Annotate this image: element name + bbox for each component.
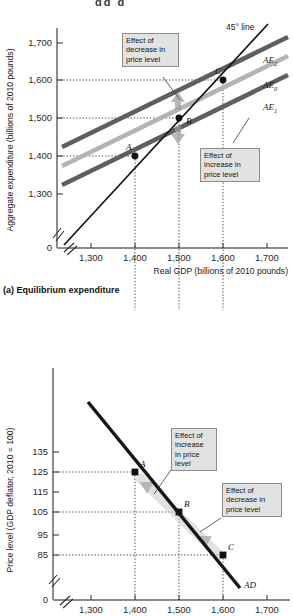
y-tick-label-1400: 1,400: [28, 150, 52, 161]
point-c: [220, 77, 227, 84]
point-label-a: A: [139, 459, 146, 469]
panel-b-svg: A B C AD 85 95 105 115 125 135 0 1,300 1…: [0, 300, 293, 616]
equilibrium-expenditure-chart: A B C 45° line AE2 AE0 AE1 1,300 1,400 1…: [0, 0, 293, 300]
y-tick-label-1300: 1,300: [28, 188, 52, 199]
callout-line: in price: [175, 450, 213, 459]
callout-line: Effect of: [204, 151, 256, 160]
callout-line: increase in: [204, 160, 256, 169]
point-label-b: B: [184, 499, 190, 509]
callout-line: price level: [226, 505, 278, 514]
origin-label: 0: [43, 594, 48, 605]
callout-increase-price-level: Effect of increase in price level: [200, 148, 260, 182]
point-label-c: C: [228, 542, 235, 552]
curve-label-45-degree: 45° line: [226, 22, 255, 32]
y-tick-label-105: 105: [32, 506, 48, 517]
callout-decrease-price-level: Effect of decrease in price level: [122, 33, 179, 67]
point-b: [176, 115, 183, 122]
x-tick-label-1400: 1,400: [123, 604, 147, 615]
x-tick-label-1700: 1,700: [255, 604, 279, 615]
point-b: [176, 509, 183, 516]
callout-line: price level: [126, 55, 175, 64]
callout-line: increase: [175, 440, 213, 449]
callout-line: Effect of: [226, 486, 278, 495]
point-label-b: B: [186, 116, 192, 126]
panel-a-caption: (a) Equilibrium expenditure: [3, 285, 120, 295]
callout-line: decrease in: [126, 45, 175, 54]
callout-increase-price-level: Effect of increase in price level: [171, 428, 217, 471]
origin-label: 0: [47, 242, 52, 253]
callout-line: Effect of: [126, 36, 175, 45]
curve-ad: [88, 402, 240, 588]
callout-line: price level: [204, 170, 256, 179]
y-tick-label-135: 135: [32, 446, 48, 457]
x-tick-label-1300: 1,300: [79, 252, 103, 263]
point-label-a: A: [125, 142, 132, 152]
point-a: [132, 469, 139, 476]
point-a: [132, 153, 139, 160]
y-tick-label-95: 95: [37, 529, 48, 540]
x-tick-label-1600: 1,600: [211, 604, 235, 615]
callout-line: level: [175, 459, 213, 468]
svg-text:AE1: AE1: [262, 102, 277, 114]
curve-label-ad: AD: [243, 580, 256, 590]
x-tick-label-1500: 1,500: [167, 604, 191, 615]
point-label-c: C: [215, 66, 222, 76]
x-axis-title: Real GDP (billions of 2010 pounds): [153, 266, 288, 276]
y-tick-label-1600: 1,600: [28, 74, 52, 85]
y-tick-label-1700: 1,700: [28, 37, 52, 48]
curve-label-ae2: AE2: [262, 55, 278, 67]
x-tick-label-1500: 1,500: [167, 252, 191, 263]
x-tick-label-1400: 1,400: [123, 252, 147, 263]
callout-line: decrease in: [226, 495, 278, 504]
svg-text:AE2: AE2: [262, 55, 278, 67]
curve-label-ae1: AE1: [262, 102, 277, 114]
y-tick-label-125: 125: [32, 466, 48, 477]
x-tick-label-1300: 1,300: [79, 604, 103, 615]
callout-decrease-price-level: Effect of decrease in price level: [222, 483, 282, 517]
x-tick-label-1700: 1,700: [255, 252, 279, 263]
x-tick-label-1600: 1,600: [211, 252, 235, 263]
callout-line: Effect of: [175, 431, 213, 440]
y-axis-title: Aggregate expenditure (billions of 2010 …: [5, 48, 15, 231]
point-c: [220, 552, 227, 559]
y-axis-title: Price level (GDP deflator, 2010 = 100): [5, 427, 15, 572]
aggregate-demand-chart: A B C AD 85 95 105 115 125 135 0 1,300 1…: [0, 300, 293, 616]
figure-container: gg g: [0, 0, 293, 616]
y-tick-label-85: 85: [37, 549, 48, 560]
y-tick-label-115: 115: [33, 486, 48, 497]
y-tick-label-1500: 1,500: [28, 112, 52, 123]
